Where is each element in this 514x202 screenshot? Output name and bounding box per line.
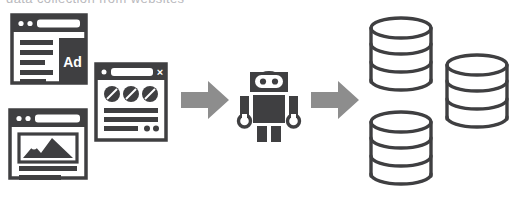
robot-leg-right (271, 126, 281, 142)
robot-icon[interactable] (238, 58, 300, 144)
robot-body (253, 95, 285, 123)
arrow-right-icon-2 (310, 79, 360, 121)
cylinder-top (447, 55, 507, 75)
cylinder-bottom (447, 117, 507, 127)
cylinder-bottom (371, 80, 431, 90)
ad-label: Ad (63, 54, 82, 70)
database-cylinder-1[interactable] (368, 16, 434, 94)
cropped-heading-text: data collection from websites (6, 0, 336, 6)
robot-hand-left (239, 114, 251, 127)
browser-window-image[interactable] (8, 108, 88, 180)
address-bar[interactable] (37, 20, 80, 28)
media-circles (104, 86, 158, 102)
content-text-lines (20, 40, 53, 83)
cylinder-layer-2 (371, 62, 431, 72)
address-bar[interactable] (35, 115, 80, 123)
address-bar[interactable] (111, 68, 153, 76)
cylinder-bottom (371, 174, 431, 184)
cylinder-top (371, 18, 431, 38)
cylinder-layer-2 (371, 156, 431, 166)
close-icon[interactable]: × (157, 66, 163, 78)
cylinder-layer-1 (371, 138, 431, 148)
diagram-canvas: data collection from websites Ad (0, 0, 514, 202)
cylinder-layer-1 (371, 44, 431, 54)
window-dot (102, 70, 107, 75)
robot-eye-left (260, 78, 266, 84)
cylinder-layer-1 (447, 81, 507, 91)
arrow-right-icon-1 (180, 79, 230, 121)
browser-window-media[interactable]: × (94, 62, 168, 142)
browser-window-ad[interactable]: Ad (10, 13, 88, 85)
media-circle-2 (123, 86, 139, 102)
robot-hand-right (288, 114, 300, 127)
robot-head (250, 71, 288, 92)
image-placeholder-icon (19, 134, 77, 162)
robot-visor (255, 75, 283, 88)
database-cylinder-3[interactable] (368, 110, 434, 188)
cylinder-top (371, 112, 431, 132)
database-cylinder-2[interactable] (444, 53, 510, 131)
robot-leg-left (257, 126, 267, 142)
media-circle-3 (142, 86, 158, 102)
robot-eye-right (272, 78, 278, 84)
cylinder-layer-2 (447, 99, 507, 109)
media-circle-1 (104, 86, 120, 102)
